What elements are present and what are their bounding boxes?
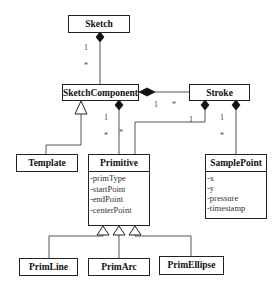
class-prim-arc: PrimArc — [88, 258, 150, 276]
attribute: -primType — [90, 173, 148, 184]
attribute-list: -x -y -pressure -timestamp — [206, 171, 266, 215]
multiplicity-label: 1 — [104, 113, 108, 122]
composition-diamond-icon — [139, 88, 155, 96]
class-name: Template — [17, 155, 77, 171]
attribute: -endPoint — [90, 194, 148, 205]
generalization-triangle-icon — [113, 226, 125, 235]
class-name: PrimLine — [20, 259, 77, 275]
composition-diamond-icon — [115, 100, 123, 110]
class-name: SketchComponent — [63, 85, 138, 101]
attribute: -startPoint — [90, 184, 148, 195]
multiplicity-label: * — [104, 131, 108, 140]
multiplicity-label: * — [119, 128, 123, 137]
class-name: Primitive — [89, 155, 149, 171]
class-name: PrimArc — [89, 259, 149, 275]
class-stroke: Stroke — [189, 84, 250, 101]
attribute: -pressure — [207, 193, 265, 203]
class-template: Template — [16, 154, 78, 172]
class-sketch-component: SketchComponent — [62, 84, 139, 101]
attribute: -x — [207, 173, 265, 183]
attribute-list: -primType -startPoint -endPoint -centerP… — [89, 171, 149, 217]
class-sample-point: SamplePoint -x -y -pressure -timestamp — [205, 154, 267, 219]
composition-diamond-icon — [232, 100, 240, 110]
class-sketch: Sketch — [68, 15, 130, 33]
connector-lines — [0, 0, 280, 291]
generalization-triangle-icon — [129, 226, 141, 235]
multiplicity-label: 1 — [154, 100, 158, 109]
class-primitive: Primitive -primType -startPoint -endPoin… — [88, 154, 150, 226]
class-name: SamplePoint — [206, 155, 266, 171]
multiplicity-label: 1 — [220, 113, 224, 122]
class-name: Sketch — [69, 16, 129, 32]
class-name: Stroke — [190, 85, 249, 101]
attribute: -y — [207, 183, 265, 193]
multiplicity-label: * — [220, 131, 224, 140]
class-prim-ellipse: PrimEllipse — [159, 256, 224, 275]
composition-diamond-icon — [201, 100, 209, 110]
class-prim-line: PrimLine — [19, 258, 78, 276]
generalization-triangle-icon — [97, 226, 109, 235]
composition-diamond-icon — [96, 32, 104, 42]
multiplicity-label: 1 — [84, 43, 88, 52]
multiplicity-label: 1 — [189, 115, 193, 124]
class-name: PrimEllipse — [160, 257, 223, 273]
attribute: -centerPoint — [90, 205, 148, 216]
attribute: -timestamp — [207, 203, 265, 213]
generalization-triangle-icon — [75, 101, 87, 114]
multiplicity-label: * — [84, 61, 88, 70]
multiplicity-label: * — [172, 100, 176, 109]
